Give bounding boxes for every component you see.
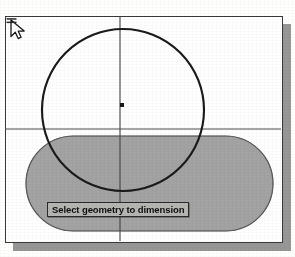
drawing-canvas[interactable]: Select geometry to dimension bbox=[6, 17, 282, 242]
status-tooltip: Select geometry to dimension bbox=[47, 202, 189, 217]
cad-window-frame: Select geometry to dimension bbox=[5, 16, 283, 243]
dimension-tool-badge-icon bbox=[6, 17, 17, 25]
cad-application-screenshot: Select geometry to dimension bbox=[0, 0, 295, 257]
status-tooltip-text: Select geometry to dimension bbox=[52, 204, 184, 215]
circle-center-point[interactable] bbox=[120, 103, 124, 107]
